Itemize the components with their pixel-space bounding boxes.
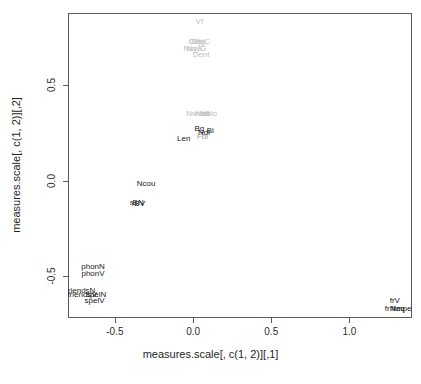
x-axis-tick-label: 0.5 xyxy=(264,326,278,337)
data-point-label-layer: VfObjCObjCmpNsySNsyGDentNwordNletNbioBgB… xyxy=(68,13,412,318)
y-axis-tick-label: 0.5 xyxy=(46,78,57,92)
x-axis-tick-mark xyxy=(349,318,350,323)
x-axis-tick-label: 1.0 xyxy=(343,326,357,337)
data-point-label: Len xyxy=(177,133,190,142)
x-axis-tick-label: -0.5 xyxy=(106,326,123,337)
data-point-label: Vf xyxy=(196,16,204,25)
data-point-label: Ncou xyxy=(137,178,156,187)
x-axis-title: measures.scale[, c(1, 2)][,1] xyxy=(0,348,421,360)
data-point-label: spelV xyxy=(85,295,105,304)
x-axis-tick-mark xyxy=(193,318,194,323)
x-axis-tick-mark xyxy=(271,318,272,323)
y-axis-title: measures.scale[, c(1, 2)][,2] xyxy=(10,97,22,233)
y-axis-tick-mark xyxy=(63,85,68,86)
data-point-label: phonV xyxy=(81,269,104,278)
y-axis-tick-mark xyxy=(63,276,68,277)
scatter-plot-figure: VfObjCObjCmpNsySNsyGDentNwordNletNbioBgB… xyxy=(0,0,421,384)
y-axis-tick-label: 0.0 xyxy=(46,174,57,188)
x-axis-tick-mark xyxy=(115,318,116,323)
data-point-label: Dent xyxy=(192,49,209,58)
data-point-label: Nbio xyxy=(200,109,216,118)
data-point-label: imper xyxy=(394,303,412,312)
data-point-label: rBV xyxy=(132,198,145,207)
data-point-label: Fbi xyxy=(197,131,208,140)
y-axis-tick-label: -0.5 xyxy=(46,267,57,284)
x-axis-tick-label: 0.0 xyxy=(186,326,200,337)
y-axis-tick-mark xyxy=(63,181,68,182)
